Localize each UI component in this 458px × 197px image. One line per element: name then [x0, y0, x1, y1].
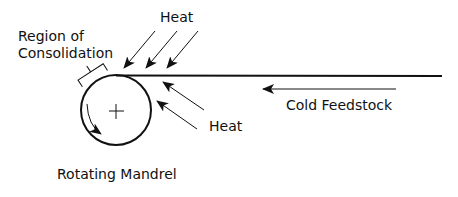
heat-arrow-icon [157, 101, 197, 129]
center-plus-icon [109, 104, 124, 119]
region-label-line2: Consolidation [18, 45, 113, 61]
heat-right-arrows [157, 82, 204, 129]
diagram-canvas: Heat Heat Region of Consolidation Cold F… [0, 0, 458, 197]
heat-top-arrows [124, 31, 198, 68]
rotation-arrow-icon [87, 104, 101, 134]
heat-arrow-icon [163, 82, 204, 110]
consolidation-bracket [74, 58, 107, 87]
region-label-line1: Region of [18, 28, 85, 44]
heat-top-label: Heat [160, 9, 194, 25]
heat-arrow-icon [167, 31, 198, 68]
heat-right-label: Heat [209, 118, 243, 134]
rotating-mandrel [81, 75, 151, 145]
feedstock-tape-line [116, 76, 442, 77]
cold-feedstock-label: Cold Feedstock [286, 97, 393, 113]
rotating-mandrel-label: Rotating Mandrel [57, 166, 177, 182]
